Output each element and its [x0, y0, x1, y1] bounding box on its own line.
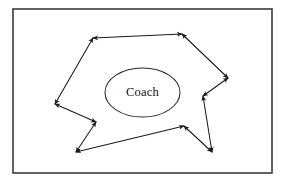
- diagram-canvas: Coach: [0, 0, 284, 182]
- coach-label: Coach: [126, 85, 159, 99]
- coach-flow-diagram: Coach: [0, 0, 284, 182]
